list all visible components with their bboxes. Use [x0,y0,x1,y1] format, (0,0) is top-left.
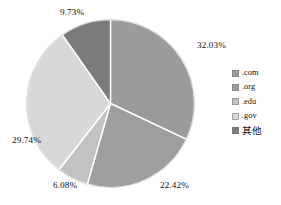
legend-swatch-icon-gov [232,113,239,120]
pie-chart-figure: 9.73% 32.03% 22.42% 6.08% 29.74% .com .o… [0,0,281,205]
legend-swatch-icon-org [232,84,239,91]
slice-value-label-gov: 29.74% [12,136,41,145]
legend-label-com: .com [242,69,259,77]
legend-label-gov: .gov [242,112,257,120]
legend-label-org: .org [242,83,255,91]
legend-item-com: .com [232,66,281,80]
chart-legend: .com .org .edu .gov 其他 [232,66,281,138]
slice-value-label-org: 22.42% [160,181,189,190]
legend-label-edu: .edu [242,98,256,106]
legend-item-gov: .gov [232,109,281,123]
pie-slice-group [26,19,194,187]
legend-item-org: .org [232,80,281,94]
slice-value-label-com: 32.03% [197,41,226,50]
legend-swatch-icon-edu [232,98,239,105]
legend-swatch-icon-com [232,70,239,77]
slice-value-label-edu: 6.08% [53,181,77,190]
legend-swatch-icon-other [232,127,239,134]
legend-item-other: 其他 [232,124,281,138]
legend-label-other: 其他 [242,126,262,136]
legend-item-edu: .edu [232,95,281,109]
slice-value-label-other: 9.73% [60,8,84,17]
